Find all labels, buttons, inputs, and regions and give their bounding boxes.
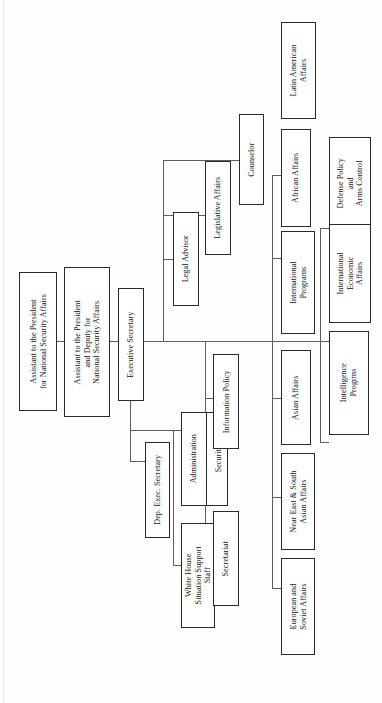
node-label: African Affairs [291,153,301,203]
connector-execsec-to-info-riser [205,341,206,398]
node-label: Assistant to the President and Deputy fo… [73,300,102,384]
connector-to-near-east-south-asian-affairs [272,497,281,498]
node-label: Near East & South Asian Affairs [288,470,307,532]
node-label: White House Situation Support Staff [184,546,213,604]
connector-lower-staff-riser [173,430,174,565]
scan-edge-artifact [3,0,4,703]
connector-upper-staff-riser [163,160,164,342]
connector-root-to-deputy [56,341,64,342]
node-label: Secretariat [221,541,231,576]
node-label: Security [213,446,223,473]
node-dep-exec-secretary[interactable]: Dep. Exec. Secretary [145,442,170,538]
node-label: Assistant to the President for National … [28,294,47,389]
connector-main-spine [144,341,329,342]
connector-to-latin-american-affairs [272,175,281,176]
node-african-affairs[interactable]: African Affairs [281,129,311,227]
node-asian-affairs[interactable]: Asian Affairs [281,350,311,445]
node-label: European and Soviet Affairs [288,583,307,629]
node-label: Administration [189,434,199,483]
node-label: Intelligence Progrms [339,363,358,402]
node-international-programs[interactable]: International Programs [281,231,315,334]
connector-to-legal-advisor [163,259,173,260]
connector-to-defense-policy [320,228,329,229]
connector-spine-to-far-right [320,341,329,342]
node-label: Legal Advisor [181,235,191,282]
connector-to-intelligence-programs [320,442,329,443]
node-near-east-south-asian-affairs[interactable]: Near East & South Asian Affairs [281,453,315,550]
node-intelligence-programs[interactable]: Intelligence Progrms [329,331,369,435]
connector-to-whsss [173,565,181,566]
node-international-economic-affairs[interactable]: International Economic Affairs [329,224,371,323]
node-label: Defense Policy and Arms Control [336,158,365,208]
node-counselor[interactable]: Counselor [239,114,264,205]
node-defense-policy-arms-control[interactable]: Defense Policy and Arms Control [329,137,371,230]
node-information-policy[interactable]: Information Policy [213,354,239,449]
node-label: Dep. Exec. Secretary [153,455,163,525]
node-european-soviet-affairs[interactable]: European and Soviet Affairs [281,558,315,655]
node-administration[interactable]: Administration [182,413,206,505]
node-executive-secretary[interactable]: Executive Secretary [118,288,144,401]
node-label: Latin American Affairs [289,45,308,97]
connector-deputy-to-execsec [110,341,118,342]
connector-to-asian-affairs [272,398,281,399]
node-label: International Economic Affairs [336,252,365,294]
connector-to-european-soviet-affairs [272,588,281,589]
org-chart-canvas: Assistant to the President for National … [0,0,382,703]
node-label: Asian Affairs [291,375,301,419]
node-assistant-to-president-nsa[interactable]: Assistant to the President for National … [19,272,57,411]
connector-directorate-spine-lower [272,341,273,588]
node-label: Legislative Affairs [213,177,223,239]
node-label: Executive Secretary [126,311,136,377]
node-label: Counselor [247,142,257,176]
node-label: Information Policy [221,370,231,433]
node-latin-american-affairs[interactable]: Latin American Affairs [281,22,316,119]
connector-execsec-to-lower-group [130,430,173,431]
node-label: International Programs [288,261,307,303]
node-legal-advisor[interactable]: Legal Advisor [173,212,199,306]
connector-to-dep-exec-secretary [130,461,145,462]
node-assistant-and-deputy-nsa[interactable]: Assistant to the President and Deputy fo… [64,267,110,417]
connector-to-african-affairs [272,258,281,259]
node-white-house-situation-support-staff[interactable]: White House Situation Support Staff [181,523,215,628]
connector-to-admin-security [173,430,181,431]
node-legislative-affairs[interactable]: Legislative Affairs [205,161,231,255]
connector-spine-to-info-riser [205,398,213,399]
node-secretariat[interactable]: Secretariat [213,511,239,606]
connector-far-right-riser [320,228,321,442]
